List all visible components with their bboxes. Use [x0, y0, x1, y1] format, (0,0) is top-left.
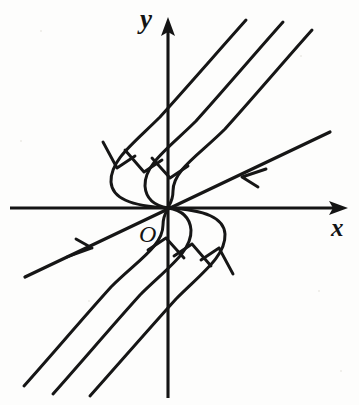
phase-portrait-canvas	[0, 0, 359, 405]
x-axis-label: x	[331, 215, 344, 240]
y-axis-label: y	[140, 6, 152, 33]
upper-left-trajectory-3	[168, 30, 312, 208]
upper-left-trajectory-3-arrowhead	[152, 158, 188, 178]
phase-portrait-figure: y x O	[0, 0, 359, 405]
lower-right-trajectory-family	[24, 208, 233, 396]
separatrix-lower-arrowhead	[67, 239, 92, 257]
upper-left-trajectory-2	[145, 22, 283, 208]
upper-left-trajectory-family	[103, 20, 312, 208]
lower-right-trajectory-2	[53, 208, 191, 394]
origin-label: O	[139, 222, 156, 246]
